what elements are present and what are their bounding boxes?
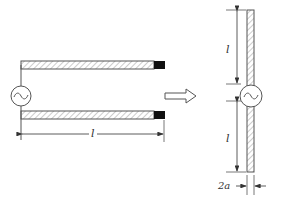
dipole-antenna xyxy=(226,10,266,195)
upper-arm-length-label: l xyxy=(226,44,230,55)
upper-conductor-tip xyxy=(154,61,165,69)
ac-source-icon xyxy=(11,86,31,106)
upper-arm xyxy=(247,10,254,86)
lower-conductor-tip xyxy=(154,111,165,119)
lower-conductor xyxy=(21,111,154,119)
ac-source-icon-dipole xyxy=(240,85,262,107)
lower-arm xyxy=(247,106,254,172)
two-wire-line xyxy=(11,61,165,142)
diagram-canvas xyxy=(0,0,286,207)
upper-conductor xyxy=(21,61,154,69)
arrow-right-icon xyxy=(165,89,196,103)
left-length-label: l xyxy=(89,128,97,139)
diameter-label: 2a xyxy=(218,181,230,191)
lower-arm-length-label: l xyxy=(226,133,230,144)
